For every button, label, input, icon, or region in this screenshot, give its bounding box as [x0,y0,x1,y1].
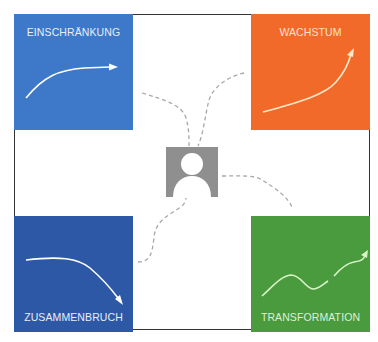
plateau-arrow-icon [14,14,133,130]
quadrant-label: ZUSAMMENBRUCH [14,311,133,323]
exponential-growth-arrow-icon [251,14,370,130]
quadrant-zusammenbruch: ZUSAMMENBRUCH [14,216,133,332]
quadrant-einschraenkung: EINSCHRÄNKUNG [14,14,133,130]
connector-top-right [198,73,244,146]
quadrant-transformation: TRANSFORMATION [251,216,370,332]
connector-bottom-right [222,176,292,207]
quadrant-wachstum: WACHSTUM [251,14,370,130]
quadrant-label: TRANSFORMATION [251,311,370,323]
person-icon [166,147,218,197]
connector-bottom-left [138,198,186,262]
connector-top-left [142,93,189,146]
